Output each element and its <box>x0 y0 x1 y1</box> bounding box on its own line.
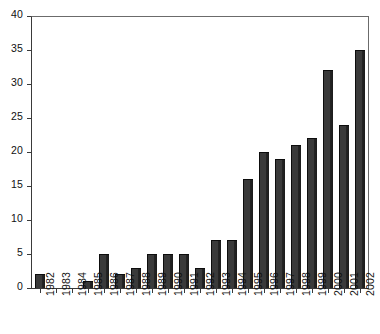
y-tick-label: 0 <box>17 281 23 292</box>
bar-2002[interactable] <box>355 50 365 288</box>
y-tick-label: 35 <box>11 43 23 54</box>
x-tick-mark <box>72 289 73 293</box>
x-tick-mark <box>216 289 217 293</box>
x-tick-mark <box>344 289 345 293</box>
x-tick-mark <box>136 289 137 293</box>
y-tick-mark <box>27 16 31 17</box>
bar-slot <box>160 16 176 288</box>
y-tick-mark <box>27 152 31 153</box>
bar-slot <box>208 16 224 288</box>
x-tick-label-1987: 1987 <box>125 272 136 296</box>
x-tick-mark <box>152 289 153 293</box>
bar-slot <box>32 16 48 288</box>
x-tick-mark <box>328 289 329 293</box>
x-tick-label-1992: 1992 <box>205 272 216 296</box>
bar-slot <box>112 16 128 288</box>
y-tick-mark <box>27 118 31 119</box>
x-tick-mark <box>312 289 313 293</box>
x-tick-mark <box>248 289 249 293</box>
y-tick-label: 15 <box>11 179 23 190</box>
y-tick-label: 20 <box>11 145 23 156</box>
bar-slot <box>352 16 368 288</box>
x-tick-label-1988: 1988 <box>141 272 152 296</box>
bar-slot <box>336 16 352 288</box>
y-axis: 0510152025303540 <box>0 16 31 289</box>
bar-slot <box>176 16 192 288</box>
x-tick-mark <box>184 289 185 293</box>
x-tick-mark <box>280 289 281 293</box>
x-tick-label-1991: 1991 <box>189 272 200 296</box>
y-tick-mark <box>27 254 31 255</box>
bar-slot <box>320 16 336 288</box>
y-tick-mark <box>27 288 31 289</box>
bar-slot <box>224 16 240 288</box>
x-tick-label-1989: 1989 <box>157 272 168 296</box>
y-tick-label: 30 <box>11 77 23 88</box>
x-tick-label-1993: 1993 <box>221 272 232 296</box>
y-tick-label: 5 <box>17 247 23 258</box>
bar-chart: 0510152025303540 19821983198419851986198… <box>0 0 380 334</box>
bar-2001[interactable] <box>339 125 349 288</box>
x-tick-mark <box>168 289 169 293</box>
x-tick-mark <box>120 289 121 293</box>
bar-slot <box>256 16 272 288</box>
y-tick-label: 25 <box>11 111 23 122</box>
bar-1997[interactable] <box>275 159 285 288</box>
bar-slot <box>144 16 160 288</box>
bar-slot <box>80 16 96 288</box>
x-tick-label-1999: 1999 <box>317 272 328 296</box>
x-tick-mark <box>56 289 57 293</box>
x-tick-label-2002: 2002 <box>365 272 376 296</box>
bar-slot <box>64 16 80 288</box>
bars-container <box>32 16 368 288</box>
y-tick-mark <box>27 220 31 221</box>
x-tick-label-1990: 1990 <box>173 272 184 296</box>
bar-slot <box>240 16 256 288</box>
x-tick-label-1998: 1998 <box>301 272 312 296</box>
y-tick-mark <box>27 186 31 187</box>
x-tick-label-1995: 1995 <box>253 272 264 296</box>
bar-2000[interactable] <box>323 70 333 288</box>
bar-1996[interactable] <box>259 152 269 288</box>
bar-slot <box>272 16 288 288</box>
x-tick-label-2001: 2001 <box>349 272 360 296</box>
y-tick-mark <box>27 50 31 51</box>
x-tick-mark <box>232 289 233 293</box>
x-tick-mark <box>40 289 41 293</box>
bar-slot <box>48 16 64 288</box>
x-axis: 1982198319841985198619871988198919901991… <box>32 289 368 334</box>
bar-1998[interactable] <box>291 145 301 288</box>
x-tick-label-1997: 1997 <box>285 272 296 296</box>
bar-1999[interactable] <box>307 138 317 288</box>
x-tick-label-1994: 1994 <box>237 272 248 296</box>
y-tick-label: 10 <box>11 213 23 224</box>
bar-slot <box>128 16 144 288</box>
y-tick-label: 40 <box>11 9 23 20</box>
x-tick-mark <box>264 289 265 293</box>
x-tick-label-1982: 1982 <box>45 272 56 296</box>
x-tick-label-2000: 2000 <box>333 272 344 296</box>
bar-slot <box>96 16 112 288</box>
bar-slot <box>192 16 208 288</box>
bar-slot <box>304 16 320 288</box>
x-tick-label-1996: 1996 <box>269 272 280 296</box>
x-tick-mark <box>360 289 361 293</box>
x-tick-label-1986: 1986 <box>109 272 120 296</box>
x-tick-mark <box>296 289 297 293</box>
x-tick-label-1985: 1985 <box>93 272 104 296</box>
bar-slot <box>288 16 304 288</box>
x-tick-label-1983: 1983 <box>61 272 72 296</box>
x-tick-mark <box>88 289 89 293</box>
y-tick-mark <box>27 84 31 85</box>
x-tick-label-1984: 1984 <box>77 272 88 296</box>
x-tick-mark <box>200 289 201 293</box>
x-tick-mark <box>104 289 105 293</box>
